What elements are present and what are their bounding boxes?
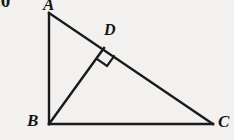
segment-ac <box>49 13 213 124</box>
segments-group <box>49 13 213 124</box>
vertex-label-d: D <box>104 22 116 38</box>
segment-bd-altitude <box>49 48 104 124</box>
vertex-label-b: B <box>27 112 38 129</box>
geometry-figure: .0 A D B C <box>0 0 234 140</box>
vertex-label-a: A <box>43 0 54 13</box>
vertex-label-c: C <box>218 113 229 130</box>
